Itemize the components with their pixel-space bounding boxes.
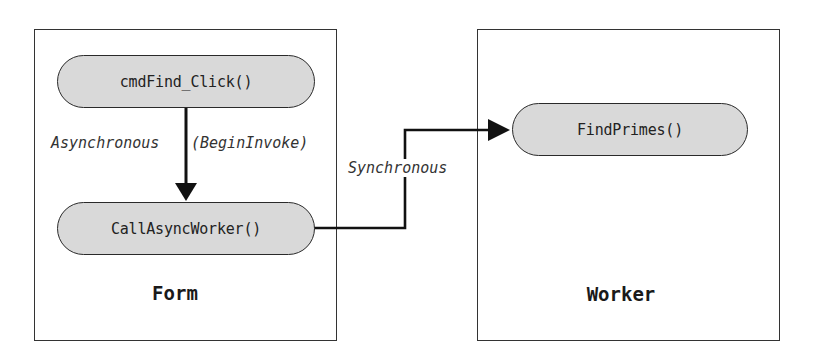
node-findprimes: FindPrimes() [512,103,748,156]
async-label: Asynchronous [50,134,162,152]
sync-label: Synchronous [347,159,448,177]
node-callasyncworker: CallAsyncWorker() [57,202,315,255]
sync-arrow-line [314,130,492,228]
worker-box-label: Worker [571,283,671,305]
node-cmdfind-click: cmdFind_Click() [57,55,315,108]
begininvoke-label: (BeginInvoke) [190,134,309,152]
form-box-label: Form [140,282,210,304]
